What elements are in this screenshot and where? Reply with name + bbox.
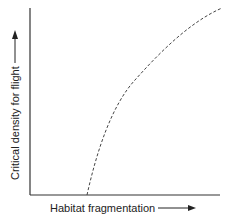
critical-density-curve xyxy=(87,8,222,195)
diagram: Habitat fragmentation Critical density f… xyxy=(0,0,228,222)
y-axis-label: Critical density for flight xyxy=(9,66,21,180)
x-axis-label: Habitat fragmentation xyxy=(50,202,155,214)
x-arrowhead-icon xyxy=(188,205,196,211)
y-arrowhead-icon xyxy=(12,30,18,39)
